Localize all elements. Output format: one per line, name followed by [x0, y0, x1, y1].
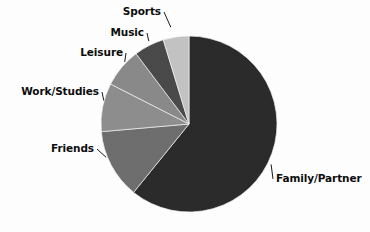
leader-line-leisure: [125, 53, 126, 62]
slice-label-family-partner: Family/Partner: [276, 172, 362, 184]
leader-line-sports: [164, 12, 171, 27]
slice-label-music: Music: [111, 26, 145, 38]
slice-label-work-studies: Work/Studies: [21, 85, 99, 97]
leader-line-music: [147, 33, 149, 41]
slice-label-friends: Friends: [51, 142, 94, 154]
slice-label-leisure: Leisure: [80, 46, 123, 58]
leader-line-family-partner: [271, 164, 273, 179]
pie-slices-group: [101, 36, 277, 212]
pie-chart-svg: SportsMusicLeisureWork/StudiesFriendsFam…: [0, 0, 370, 232]
slice-label-sports: Sports: [123, 5, 161, 17]
leader-line-work-studies: [102, 92, 104, 101]
pie-chart: SportsMusicLeisureWork/StudiesFriendsFam…: [0, 0, 370, 232]
